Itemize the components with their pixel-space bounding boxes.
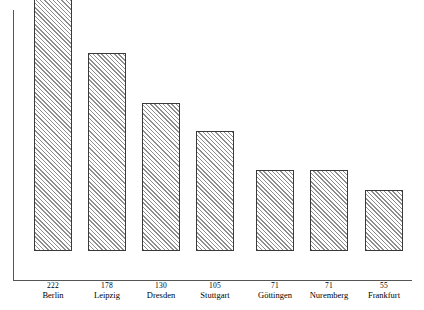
bar-name-gottingen: Göttingen — [247, 291, 303, 300]
bar-label-berlin: 222 Berlin — [25, 282, 81, 300]
bar-berlin — [34, 0, 72, 251]
bar-name-dresden: Dresden — [133, 291, 189, 300]
bar-value-frankfurt: 55 — [356, 282, 412, 290]
bar-dresden — [142, 103, 180, 251]
x-axis-labels: 222 Berlin 178 Leipzig 130 Dresden 105 S… — [0, 282, 424, 310]
bar-value-gottingen: 71 — [247, 282, 303, 290]
bar-value-nuremberg: 71 — [301, 282, 357, 290]
bar-gottingen — [256, 170, 294, 251]
bar-label-frankfurt: 55 Frankfurt — [356, 282, 412, 300]
bar-name-nuremberg: Nuremberg — [301, 291, 357, 300]
bar-value-dresden: 130 — [133, 282, 189, 290]
bar-stuttgart — [196, 131, 234, 251]
bar-leipzig — [88, 53, 126, 251]
bar-name-berlin: Berlin — [25, 291, 81, 300]
plot-area — [0, 0, 424, 281]
bar-value-leipzig: 178 — [79, 282, 135, 290]
y-axis-line — [13, 10, 14, 281]
bar-label-leipzig: 178 Leipzig — [79, 282, 135, 300]
bar-name-stuttgart: Stuttgart — [187, 291, 243, 300]
bar-value-stuttgart: 105 — [187, 282, 243, 290]
bar-name-leipzig: Leipzig — [79, 291, 135, 300]
bar-frankfurt — [365, 190, 403, 251]
bar-label-stuttgart: 105 Stuttgart — [187, 282, 243, 300]
bar-value-berlin: 222 — [25, 282, 81, 290]
bar-label-dresden: 130 Dresden — [133, 282, 189, 300]
bar-label-gottingen: 71 Göttingen — [247, 282, 303, 300]
bar-nuremberg — [310, 170, 348, 251]
bar-chart: 222 Berlin 178 Leipzig 130 Dresden 105 S… — [0, 0, 424, 310]
bar-label-nuremberg: 71 Nuremberg — [301, 282, 357, 300]
bar-name-frankfurt: Frankfurt — [356, 291, 412, 300]
